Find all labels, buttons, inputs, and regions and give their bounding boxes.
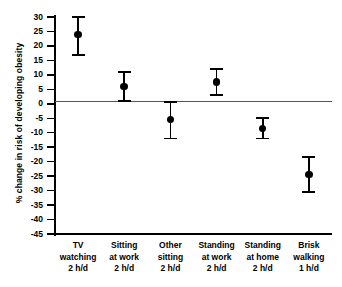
x-category-label: Standingat work2 h/d [194, 240, 240, 275]
data-point-group [286, 0, 332, 217]
error-bar-cap-upper [118, 71, 131, 73]
x-category-label: TVwatching2 h/d [55, 240, 101, 275]
y-tick-label: 5 [0, 85, 43, 94]
y-tick-mark [47, 146, 55, 148]
x-category-label-line: 2 h/d [240, 263, 286, 275]
x-axis-line [54, 233, 332, 235]
y-tick-mark [47, 89, 55, 91]
y-tick-label: 0 [0, 99, 43, 108]
data-point-marker [74, 31, 82, 39]
error-bar-cap-lower [302, 191, 315, 193]
y-tick-mark [47, 204, 55, 206]
x-category-label: Othersitting2 h/d [147, 240, 193, 275]
y-tick-mark [47, 74, 55, 76]
y-tick-mark [47, 118, 55, 120]
y-tick-mark [47, 175, 55, 177]
data-point-group [147, 0, 193, 217]
x-category-label-line: at work [194, 252, 240, 264]
data-point-group [240, 0, 286, 217]
y-tick-label: -10 [0, 128, 43, 137]
x-category-label-line: Other [147, 240, 193, 252]
x-category-label-line: 2 h/d [101, 263, 147, 275]
y-tick-mark [47, 233, 55, 235]
y-tick-label: -15 [0, 143, 43, 152]
error-bar-cap-lower [256, 138, 269, 140]
x-category-label-line: sitting [147, 252, 193, 264]
y-tick-mark [47, 45, 55, 47]
x-category-label: Standingat home2 h/d [240, 240, 286, 275]
y-tick-label: -35 [0, 201, 43, 210]
y-tick-mark [47, 16, 55, 18]
y-tick-label: 20 [0, 41, 43, 50]
x-category-label-line: walking [286, 252, 332, 264]
y-tick-mark [47, 60, 55, 62]
y-tick-label: -45 [0, 230, 43, 239]
data-point-group [55, 0, 101, 217]
y-tick-label: -5 [0, 114, 43, 123]
y-tick-mark [47, 103, 55, 105]
x-category-label: Sittingat work2 h/d [101, 240, 147, 275]
obesity-risk-chart: % change in risk of developing obesity 3… [0, 0, 342, 287]
data-point-marker [259, 125, 267, 133]
x-category-label-line: Standing [240, 240, 286, 252]
data-point-marker [120, 83, 128, 91]
error-bar-cap-upper [302, 156, 315, 158]
error-bar-cap-upper [72, 16, 85, 18]
y-tick-mark [47, 132, 55, 134]
y-tick-label: -40 [0, 215, 43, 224]
y-tick-mark [47, 219, 55, 221]
y-tick-label: -20 [0, 157, 43, 166]
y-tick-label: -30 [0, 186, 43, 195]
x-category-label: Briskwalking1 h/d [286, 240, 332, 275]
y-tick-label: 10 [0, 70, 43, 79]
x-category-label-line: watching [55, 252, 101, 264]
error-bar-cap-upper [164, 101, 177, 103]
error-bar-cap-upper [210, 68, 223, 70]
x-category-label-line: TV [55, 240, 101, 252]
x-category-label-line: 2 h/d [55, 263, 101, 275]
y-tick-label: 30 [0, 13, 43, 22]
error-bar-cap-lower [72, 54, 85, 56]
y-tick-mark [47, 161, 55, 163]
y-tick-mark [47, 31, 55, 33]
error-bar-cap-upper [256, 117, 269, 119]
data-point-marker [213, 78, 221, 86]
x-category-label-line: Brisk [286, 240, 332, 252]
data-point-marker [305, 171, 313, 179]
error-bar-cap-lower [118, 100, 131, 102]
data-point-marker [167, 116, 175, 124]
x-category-label-line: Standing [194, 240, 240, 252]
error-bar-cap-lower [164, 138, 177, 140]
y-tick-mark [47, 190, 55, 192]
x-category-label-line: 2 h/d [147, 263, 193, 275]
y-tick-label: 25 [0, 27, 43, 36]
y-tick-label: 15 [0, 56, 43, 65]
x-category-label-line: at work [101, 252, 147, 264]
data-point-group [194, 0, 240, 217]
x-category-label-line: 1 h/d [286, 263, 332, 275]
x-category-label-line: 2 h/d [194, 263, 240, 275]
x-category-label-line: at home [240, 252, 286, 264]
data-point-group [101, 0, 147, 217]
x-category-label-line: Sitting [101, 240, 147, 252]
y-tick-label: -25 [0, 172, 43, 181]
error-bar-cap-lower [210, 94, 223, 96]
